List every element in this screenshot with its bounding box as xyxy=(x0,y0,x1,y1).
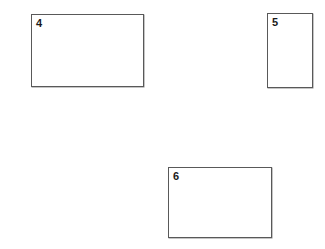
figure-canvas: 4 5 6 xyxy=(0,0,325,249)
rectangle-4-label: 4 xyxy=(36,18,42,29)
rectangle-6: 6 xyxy=(168,167,272,238)
rectangle-6-label: 6 xyxy=(173,171,179,182)
rectangle-4: 4 xyxy=(31,14,144,87)
rectangle-5-label: 5 xyxy=(272,17,278,28)
rectangle-5: 5 xyxy=(267,13,313,88)
